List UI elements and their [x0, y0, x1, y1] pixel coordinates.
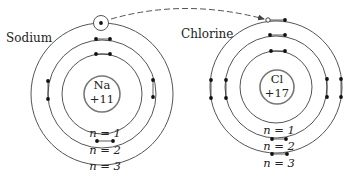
electron — [151, 78, 155, 82]
sodium-label-n3: n = 3 — [89, 159, 121, 173]
electron-vacancy — [266, 18, 270, 22]
electron — [46, 97, 50, 101]
chlorine-atom: Chlorine Cl +17 — [181, 18, 343, 170]
electron — [151, 95, 155, 99]
chlorine-symbol: Cl — [271, 72, 284, 86]
sodium-n1-electrons — [94, 52, 112, 56]
sodium-symbol: Na — [94, 78, 111, 92]
sodium-atom: Sodium Na +11 — [6, 16, 173, 174]
chlorine-n1-electrons — [269, 49, 287, 53]
electron — [94, 52, 98, 56]
chlorine-charge: +17 — [265, 86, 289, 100]
chlorine-label-n3: n = 3 — [263, 156, 295, 170]
electron — [108, 37, 112, 41]
electron — [46, 79, 50, 83]
sodium-label: Sodium — [6, 31, 53, 45]
chlorine-label-n2: n = 2 — [263, 139, 295, 153]
sodium-charge: +11 — [90, 92, 114, 106]
sodium-label-n2: n = 2 — [89, 143, 121, 157]
sodium-valence-electron — [94, 16, 109, 31]
ionic-bond-diagram: Sodium Na +11 — [0, 0, 355, 181]
electron-transfer-arrow — [111, 9, 264, 20]
electron — [94, 37, 98, 41]
electron — [108, 52, 112, 56]
chlorine-label-n1: n = 1 — [263, 123, 295, 137]
chlorine-label: Chlorine — [181, 27, 233, 41]
sodium-label-n1: n = 1 — [89, 126, 121, 140]
